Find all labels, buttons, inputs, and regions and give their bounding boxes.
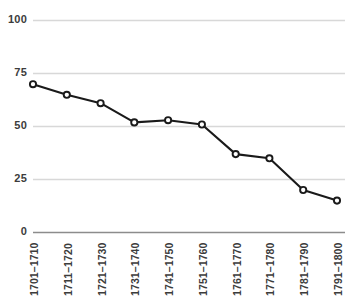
data-line	[33, 84, 337, 200]
x-tick-label-1721-1730: 1721–1730	[96, 243, 108, 296]
line-chart: 100 75 50 25 0 1701–1710 1711–1720 1721–…	[0, 0, 353, 303]
y-tick-label-75: 75	[0, 66, 27, 78]
x-tick-label-1761-1770: 1761–1770	[231, 243, 243, 296]
data-point	[64, 92, 70, 98]
data-point	[199, 121, 205, 127]
x-tick-label-1701-1710: 1701–1710	[28, 243, 40, 296]
data-point	[300, 187, 306, 193]
data-point	[30, 81, 36, 87]
x-tick-label-1751-1760: 1751–1760	[197, 243, 209, 296]
data-point	[233, 151, 239, 157]
x-tick-label-1741-1750: 1741–1750	[163, 243, 175, 296]
x-tick-label-1781-1790: 1781–1790	[298, 243, 310, 296]
x-tick-label-1791-1800: 1791–1800	[332, 243, 344, 296]
y-tick-label-100: 100	[0, 13, 27, 25]
x-tick-label-1711-1720: 1711–1720	[62, 243, 74, 296]
data-point	[165, 117, 171, 123]
x-tick-label-1731-1740: 1731–1740	[129, 243, 141, 296]
data-point	[131, 119, 137, 125]
gridlines	[33, 21, 345, 180]
y-tick-label-0: 0	[0, 225, 27, 237]
data-markers	[30, 81, 340, 204]
y-tick-label-50: 50	[0, 119, 27, 131]
x-tick-label-1771-1780: 1771–1780	[264, 243, 276, 296]
data-point	[334, 198, 340, 204]
y-tick-label-25: 25	[0, 172, 27, 184]
data-point	[98, 100, 104, 106]
data-point	[266, 155, 272, 161]
